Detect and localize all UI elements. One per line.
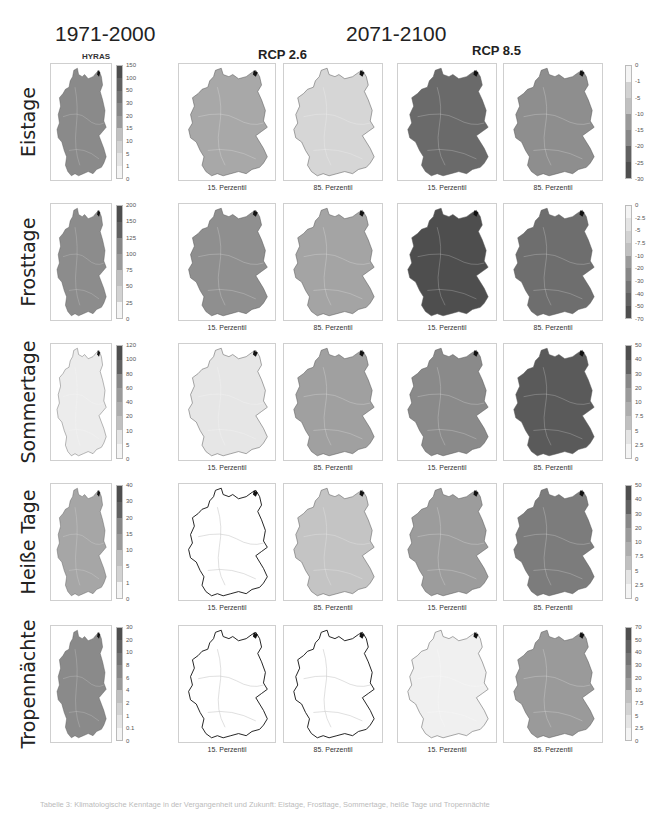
legend-tick-label: 8: [126, 662, 134, 668]
caption-p15: 15. Perzentil: [177, 464, 277, 471]
map-panel-rcp85_p85: [503, 343, 603, 461]
legend-tick-label: 5: [126, 442, 136, 448]
hyras-legend: [116, 65, 123, 179]
rcp26-column-header: RCP 2.6: [258, 47, 307, 62]
row-label: Heiße Tage: [17, 467, 39, 617]
map-panel-rcp85_p15: [397, 483, 497, 601]
legend-tick-label: 2.5: [635, 442, 643, 448]
germany-map-icon: [504, 484, 602, 600]
caption-p85: 85. Perzentil: [503, 184, 603, 191]
legend-tick-label: 30: [635, 662, 643, 668]
legend-tick-label: 2.5: [635, 725, 643, 731]
legend-tick-label: 20: [126, 113, 136, 119]
legend-tick-label: 25: [126, 300, 136, 306]
germany-map-icon: [398, 484, 496, 600]
caption-p15: 15. Perzentil: [397, 604, 497, 611]
legend-tick-label: 75: [126, 267, 136, 273]
legend-tick-label: 40: [635, 356, 643, 362]
legend-tick-label: -5: [635, 95, 644, 101]
legend-tick-label: 5: [635, 428, 643, 434]
legend-tick-label: 5: [635, 713, 643, 719]
hyras-legend: [116, 345, 123, 459]
legend-tick-label: 50: [126, 283, 136, 289]
row-label: Frosttage: [17, 187, 39, 337]
change-legend-ticks: 0-1-5-10-15-20-25-30: [635, 62, 644, 182]
map-panel-rcp26_p85: [283, 63, 383, 181]
legend-tick-label: 30: [126, 100, 136, 106]
legend-tick-label: 100: [126, 251, 136, 257]
legend-tick-label: 40: [126, 482, 133, 488]
legend-tick-label: 0: [126, 596, 133, 602]
germany-map-icon: [179, 484, 275, 600]
legend-tick-label: 0: [635, 456, 643, 462]
germany-map-icon: [51, 64, 111, 180]
caption-p15: 15. Perzentil: [177, 746, 277, 753]
caption-p15: 15. Perzentil: [177, 604, 277, 611]
legend-tick-label: 100: [126, 75, 136, 81]
legend-tick-label: 80: [126, 371, 136, 377]
legend-tick-label: -5: [635, 227, 645, 233]
caption-p15: 15. Perzentil: [177, 184, 277, 191]
legend-tick-label: 20: [635, 675, 643, 681]
change-legend: [625, 65, 632, 179]
legend-tick-label: 0.1: [126, 725, 134, 731]
caption-p85: 85. Perzentil: [283, 604, 383, 611]
legend-tick-label: 10: [635, 687, 643, 693]
germany-map-icon: [179, 64, 275, 180]
hyras-legend-ticks: 1501005030201510510: [126, 62, 136, 182]
caption-p85: 85. Perzentil: [283, 746, 383, 753]
caption-p85: 85. Perzentil: [503, 746, 603, 753]
legend-tick-label: 7.5: [635, 553, 643, 559]
germany-map-icon: [51, 484, 111, 600]
germany-map-icon: [284, 64, 382, 180]
map-panel-rcp26_p85: [283, 203, 383, 321]
map-panel-rcp26_p15: [178, 203, 276, 321]
baseline-period-title: 1971-2000: [55, 22, 155, 46]
hyras-legend-ticks: 2001501251007550250: [126, 202, 136, 322]
legend-tick-label: 0: [635, 202, 645, 208]
legend-tick-label: 30: [126, 624, 134, 630]
legend-tick-label: 10: [126, 547, 133, 553]
row-label: Eistage: [17, 47, 39, 197]
future-period-title: 2071-2100: [346, 22, 446, 46]
change-legend-ticks: 7050403020107.552.50: [635, 624, 643, 744]
map-panel-rcp26_p15: [178, 343, 276, 461]
legend-tick-label: 0: [635, 596, 643, 602]
germany-map-icon: [179, 344, 275, 460]
legend-tick-label: 10: [126, 428, 136, 434]
hyras-column-header: HYRAS: [82, 52, 110, 61]
legend-tick-label: 50: [635, 637, 643, 643]
map-panel-rcp26_p85: [283, 483, 383, 601]
legend-tick-label: 40: [126, 399, 136, 405]
legend-tick-label: -20: [635, 265, 645, 271]
legend-tick-label: 0: [635, 738, 643, 744]
legend-tick-label: 5: [635, 568, 643, 574]
caption-p15: 15. Perzentil: [397, 184, 497, 191]
map-panel-rcp85_p15: [397, 203, 497, 321]
legend-tick-label: 0: [126, 316, 136, 322]
germany-map-icon: [179, 626, 275, 742]
legend-tick-label: 5: [126, 563, 133, 569]
legend-tick-label: 10: [126, 649, 134, 655]
legend-tick-label: 4: [126, 687, 134, 693]
germany-map-icon: [179, 204, 275, 320]
hyras-legend-ticks: 4030201510510: [126, 482, 133, 602]
legend-tick-label: 0: [126, 738, 134, 744]
caption-p85: 85. Perzentil: [503, 464, 603, 471]
legend-tick-label: 6: [126, 675, 134, 681]
legend-tick-label: 150: [126, 62, 136, 68]
rcp85-column-header: RCP 8.5: [472, 43, 521, 58]
legend-tick-label: -2.5: [635, 215, 645, 221]
caption-p15: 15. Perzentil: [177, 324, 277, 331]
legend-tick-label: -1: [635, 78, 644, 84]
legend-tick-label: -50: [635, 303, 645, 309]
legend-tick-label: 10: [635, 399, 643, 405]
legend-tick-label: 120: [126, 342, 136, 348]
legend-tick-label: -10: [635, 111, 644, 117]
caption-p85: 85. Perzentil: [503, 324, 603, 331]
row-label: Tropennächte: [17, 609, 39, 759]
hyras-legend: [116, 627, 123, 741]
caption-p15: 15. Perzentil: [397, 746, 497, 753]
legend-tick-label: 0: [126, 176, 136, 182]
change-legend: [625, 205, 632, 319]
